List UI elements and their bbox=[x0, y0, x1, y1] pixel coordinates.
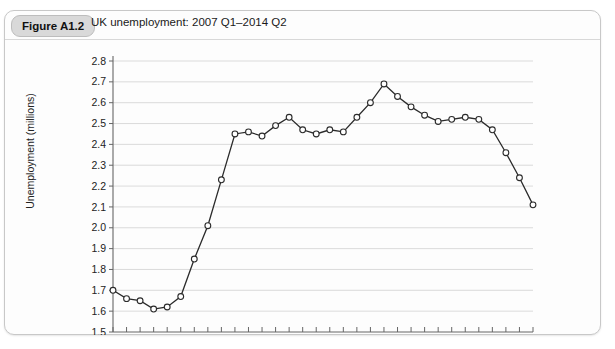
y-axis-tick-label: 2.2 bbox=[91, 180, 106, 192]
y-axis-tick-label: 1.5 bbox=[91, 326, 106, 335]
data-point-marker bbox=[164, 304, 170, 310]
data-point-marker bbox=[503, 150, 509, 156]
y-axis-tick-label: 2.5 bbox=[91, 117, 106, 129]
data-point-marker bbox=[178, 294, 184, 300]
data-point-marker bbox=[218, 177, 224, 183]
data-point-marker bbox=[381, 81, 387, 87]
line-chart: 1.51.61.71.81.92.02.12.22.32.42.52.62.72… bbox=[5, 40, 602, 335]
data-point-marker bbox=[435, 119, 441, 125]
data-point-marker bbox=[137, 298, 143, 304]
y-axis-tick-label: 2.6 bbox=[91, 96, 106, 108]
data-point-marker bbox=[449, 116, 455, 122]
y-axis-tick-label: 1.9 bbox=[91, 242, 106, 254]
data-point-marker bbox=[205, 223, 211, 229]
y-axis-tick-label: 2.4 bbox=[91, 138, 106, 150]
data-point-marker bbox=[530, 202, 536, 208]
data-point-marker bbox=[273, 123, 279, 129]
data-point-marker bbox=[517, 175, 523, 181]
data-point-marker bbox=[124, 296, 130, 302]
figure-number-badge: Figure A1.2 bbox=[11, 15, 95, 37]
y-axis-tick-label: 2.3 bbox=[91, 159, 106, 171]
data-point-marker bbox=[327, 127, 333, 133]
y-axis-tick-label: 2.0 bbox=[91, 221, 106, 233]
data-point-marker bbox=[191, 256, 197, 262]
figure-header: Figure A1.2 UK unemployment: 2007 Q1–201… bbox=[5, 11, 600, 40]
data-point-marker bbox=[422, 112, 428, 118]
data-point-marker bbox=[489, 127, 495, 133]
y-axis-tick-label: 1.8 bbox=[91, 263, 106, 275]
data-point-marker bbox=[462, 114, 468, 120]
data-point-marker bbox=[395, 94, 401, 100]
figure-title: UK unemployment: 2007 Q1–2014 Q2 bbox=[91, 16, 287, 28]
y-axis-tick-label: 2.8 bbox=[91, 55, 106, 67]
data-point-marker bbox=[151, 306, 157, 312]
y-axis-tick-label: 2.1 bbox=[91, 201, 106, 213]
data-point-marker bbox=[354, 114, 360, 120]
y-axis-tick-label: 2.7 bbox=[91, 75, 106, 87]
data-point-marker bbox=[259, 133, 265, 139]
data-point-marker bbox=[232, 131, 238, 137]
data-point-marker bbox=[340, 129, 346, 135]
data-point-marker bbox=[368, 100, 374, 106]
chart-plot-area: Unemployment (millions) 1.51.61.71.81.92… bbox=[5, 40, 600, 335]
unemployment-series-line bbox=[113, 84, 533, 309]
data-point-marker bbox=[110, 287, 116, 293]
data-point-marker bbox=[476, 116, 482, 122]
figure-card: Figure A1.2 UK unemployment: 2007 Q1–201… bbox=[4, 10, 601, 335]
data-point-marker bbox=[408, 104, 414, 110]
data-point-marker bbox=[313, 131, 319, 137]
y-axis-tick-label: 1.7 bbox=[91, 284, 106, 296]
data-point-marker bbox=[300, 127, 306, 133]
data-point-marker bbox=[286, 114, 292, 120]
y-axis-tick-label: 1.6 bbox=[91, 305, 106, 317]
data-point-marker bbox=[246, 129, 252, 135]
